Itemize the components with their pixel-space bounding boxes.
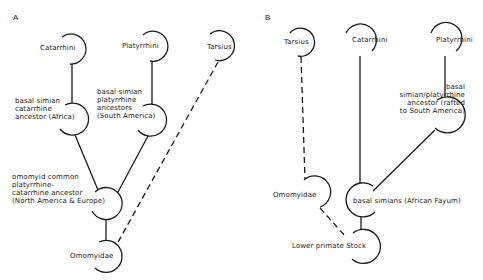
label-b-tarsius: Tarsius <box>284 38 309 46</box>
edge-b-tarsius-omomyidae <box>301 57 305 179</box>
panel-a-label: A <box>13 13 18 22</box>
label-a-tarsius: Tarsius <box>207 43 232 51</box>
label-b-basal-simians: basal simians (African Fayum) <box>353 197 461 205</box>
edge-b-omomyidae-stock <box>320 208 346 237</box>
label-b-rafted: basal simian/platyrrhine ancestor (rafte… <box>365 83 465 115</box>
label-b-catarrhini: Catarrhini <box>352 36 387 44</box>
label-a-platyrrhini: Platyrrhini <box>122 42 159 50</box>
label-a-south-america: basal simian platyrrhine ancestors (Sout… <box>97 88 155 120</box>
label-a-africa: basal simian catarrhine ancestor (Africa… <box>15 97 75 121</box>
label-b-platyrrhini: Platyrrhini <box>436 36 473 44</box>
edge-a-sa-common <box>118 136 148 192</box>
phylogeny-diagram <box>0 0 483 280</box>
label-a-common: omomyid common platyrrhine- catarrhine a… <box>12 173 105 205</box>
label-a-omomyidae: Omomyidae <box>70 252 113 260</box>
label-b-omomyidae: Omomyidae <box>273 191 316 199</box>
label-b-stock: Lower primate Stock <box>292 242 366 250</box>
label-a-catarrhini: Catarrhini <box>40 44 75 52</box>
panel-b-label: B <box>265 13 270 22</box>
edge-b-rafted-basal <box>373 130 435 191</box>
